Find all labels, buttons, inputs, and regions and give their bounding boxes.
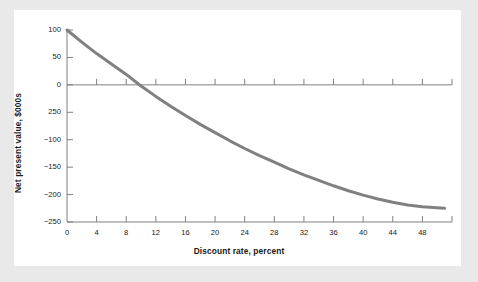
chart-plot-area: [0, 0, 478, 282]
y-tick-label-1: 50: [21, 52, 61, 61]
y-tick-label-5: −150: [21, 162, 61, 171]
series-line-0: [67, 30, 445, 208]
x-tick-label-4: 16: [170, 228, 200, 237]
x-tick-label-11: 44: [378, 228, 408, 237]
x-tick-label-12: 48: [407, 228, 437, 237]
axes-group: [67, 30, 452, 222]
x-tick-label-5: 20: [200, 228, 230, 237]
x-tick-label-6: 24: [230, 228, 260, 237]
x-tick-label-0: 0: [52, 228, 82, 237]
x-tick-label-2: 8: [111, 228, 141, 237]
y-tick-label-2: 0: [21, 80, 61, 89]
y-tick-label-0: 100: [21, 25, 61, 34]
y-tick-label-6: −200: [21, 190, 61, 199]
npv-curve-group: [67, 30, 445, 208]
x-tick-label-10: 40: [348, 228, 378, 237]
y-tick-label-4: −100: [21, 135, 61, 144]
x-tick-label-8: 32: [289, 228, 319, 237]
x-tick-label-1: 4: [82, 228, 112, 237]
zero-line-group: [67, 79, 452, 85]
y-tick-label-7: −250: [21, 217, 61, 226]
x-tick-label-7: 28: [259, 228, 289, 237]
chart-screenshot: Discount rate, percent Net present value…: [0, 0, 478, 282]
x-tick-label-9: 36: [319, 228, 349, 237]
x-tick-label-3: 12: [141, 228, 171, 237]
x-axis-title: Discount rate, percent: [0, 246, 478, 256]
y-tick-label-3: 250: [21, 107, 61, 116]
